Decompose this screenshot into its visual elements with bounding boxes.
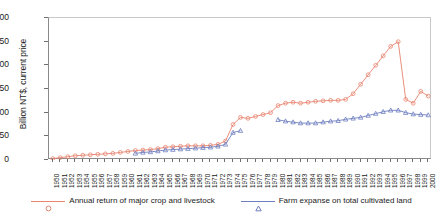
x-tick-label: 1973 <box>227 174 233 188</box>
x-tick-mark <box>375 159 376 162</box>
x-tick-label: 1967 <box>182 174 188 188</box>
x-axis-labels: 1950195119521953195419551956195719581959… <box>48 162 431 192</box>
x-tick-label: 1950 <box>54 174 60 188</box>
x-tick-label: 1995 <box>392 174 398 188</box>
x-tick-mark <box>397 159 398 162</box>
x-tick-mark <box>247 159 248 162</box>
x-tick-mark <box>127 159 128 162</box>
x-tick-mark <box>300 159 301 162</box>
legend-item-annual-return: Annual return of major crop and livestoc… <box>31 197 214 206</box>
x-tick-mark <box>412 159 413 162</box>
x-tick-label: 2000 <box>430 174 436 188</box>
x-tick-mark <box>405 159 406 162</box>
y-tick-mark <box>44 159 48 160</box>
x-tick-mark <box>119 159 120 162</box>
x-tick-mark <box>112 159 113 162</box>
x-tick-mark <box>149 159 150 162</box>
x-tick-mark <box>367 159 368 162</box>
x-tick-mark <box>330 159 331 162</box>
x-tick-label: 1968 <box>190 174 196 188</box>
y-tick-label: 300 <box>0 13 9 21</box>
x-tick-mark <box>360 159 361 162</box>
legend-swatch-triangle-icon <box>241 197 275 206</box>
y-tick-label: 50 <box>0 131 9 139</box>
x-tick-mark <box>337 159 338 162</box>
x-tick-mark <box>97 159 98 162</box>
x-tick-mark <box>172 159 173 162</box>
chart-container: Billion NT$, current price 0501001502002… <box>0 0 443 215</box>
x-tick-mark <box>232 159 233 162</box>
chart-plot-svg <box>49 18 432 160</box>
x-tick-mark <box>179 159 180 162</box>
x-tick-mark <box>240 159 241 162</box>
chart-legend: Annual return of major crop and livestoc… <box>0 193 443 209</box>
x-tick-mark <box>67 159 68 162</box>
x-tick-label: 1981 <box>287 174 293 188</box>
x-tick-label: 1960 <box>129 174 135 188</box>
x-tick-label: 1956 <box>99 174 105 188</box>
y-tick-label: 250 <box>0 37 9 45</box>
x-tick-mark <box>270 159 271 162</box>
x-tick-mark <box>390 159 391 162</box>
x-tick-mark <box>164 159 165 162</box>
x-tick-label: 1997 <box>407 174 413 188</box>
legend-label-annual-return: Annual return of major crop and livestoc… <box>69 197 214 205</box>
x-tick-label: 1999 <box>422 174 428 188</box>
x-tick-mark <box>427 159 428 162</box>
x-tick-mark <box>52 159 53 162</box>
x-tick-label: 1958 <box>114 174 120 188</box>
x-tick-label: 1965 <box>167 174 173 188</box>
x-tick-label: 1966 <box>175 174 181 188</box>
x-tick-label: 1991 <box>362 174 368 188</box>
x-tick-mark <box>82 159 83 162</box>
x-tick-mark <box>187 159 188 162</box>
legend-label-farm-expanse: Farm expanse on total cultivated land <box>279 197 412 205</box>
x-tick-label: 1952 <box>69 174 75 188</box>
x-tick-mark <box>315 159 316 162</box>
x-tick-mark <box>255 159 256 162</box>
x-tick-label: 1985 <box>317 174 323 188</box>
x-tick-label: 1971 <box>212 174 218 188</box>
x-tick-mark <box>74 159 75 162</box>
y-axis-title: Billion NT$, current price <box>18 19 30 149</box>
x-tick-mark <box>345 159 346 162</box>
x-tick-label: 1987 <box>332 174 338 188</box>
plot-area <box>48 17 431 159</box>
x-tick-label: 1969 <box>197 174 203 188</box>
x-tick-label: 1975 <box>242 174 248 188</box>
x-tick-mark <box>420 159 421 162</box>
x-tick-mark <box>322 159 323 162</box>
legend-swatch-circle-icon <box>31 197 65 206</box>
x-tick-mark <box>209 159 210 162</box>
data-point <box>238 128 242 132</box>
x-tick-mark <box>142 159 143 162</box>
x-tick-mark <box>382 159 383 162</box>
x-tick-mark <box>262 159 263 162</box>
y-tick-label: 200 <box>0 60 9 68</box>
x-tick-label: 1989 <box>347 174 353 188</box>
x-tick-mark <box>134 159 135 162</box>
series-annual-return <box>51 40 430 160</box>
x-tick-mark <box>89 159 90 162</box>
x-tick-mark <box>157 159 158 162</box>
series-farm-expanse <box>133 108 430 155</box>
x-tick-label: 1983 <box>302 174 308 188</box>
x-tick-label: 1962 <box>144 174 150 188</box>
x-tick-label: 1977 <box>257 174 263 188</box>
x-tick-label: 1972 <box>220 174 226 188</box>
x-tick-mark <box>104 159 105 162</box>
x-tick-mark <box>292 159 293 162</box>
x-tick-mark <box>59 159 60 162</box>
x-tick-mark <box>194 159 195 162</box>
data-point <box>276 117 280 121</box>
x-tick-label: 1993 <box>377 174 383 188</box>
y-tick-label: 150 <box>0 84 9 92</box>
y-tick-label: 100 <box>0 108 9 116</box>
legend-item-farm-expanse: Farm expanse on total cultivated land <box>241 197 412 206</box>
x-tick-mark <box>277 159 278 162</box>
x-tick-label: 1979 <box>272 174 278 188</box>
x-tick-mark <box>307 159 308 162</box>
x-tick-mark <box>217 159 218 162</box>
x-tick-label: 1964 <box>159 174 165 188</box>
x-tick-mark <box>224 159 225 162</box>
